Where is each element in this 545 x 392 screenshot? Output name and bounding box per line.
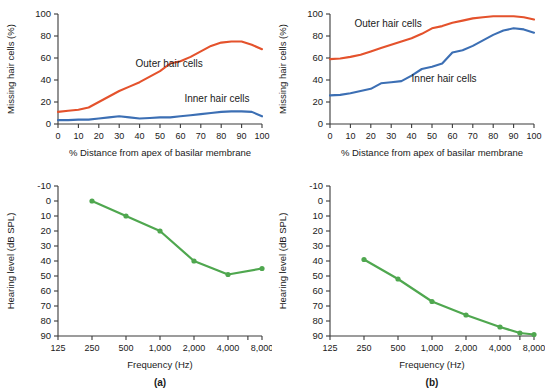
y-tick-label: 0 [318,195,323,206]
x-tick-label: 80 [216,131,226,141]
chart-panel-b-bottom: -100102030405060708090 1252505001,0002,0… [272,170,545,392]
y-tick-label: 60 [312,285,323,296]
data-point-marker [429,299,434,304]
y-ticks-a-top: 020406080100 [35,8,58,129]
y-ticks-b-bottom: -100102030405060708090 [309,180,330,341]
x-axis-title-b-bottom: Frequency (Hz) [399,359,464,370]
x-ticks-a-top: 0102030405060708090100 [55,124,269,141]
audiogram-chart-b: -100102030405060708090 1252505001,0002,0… [272,170,545,392]
x-tick-label: 30 [386,131,396,141]
audiogram-markers-b [361,257,536,337]
x-axis-title-a-bottom: Frequency (Hz) [127,359,192,370]
data-point-marker [497,324,502,329]
x-ticks-b-top: 0102030405060708090100 [327,124,541,141]
data-point-marker [259,266,264,271]
x-tick-label: 125 [50,343,65,353]
y-ticks-a-bottom: -100102030405060708090 [37,180,58,341]
y-axis-title-a-bottom: Hearing level (dB SPL) [5,213,16,310]
data-point-marker [463,312,468,317]
x-tick-label: 500 [390,343,405,353]
y-tick-label: 80 [312,30,323,41]
outer-hair-cells-label-a: Outer hair cells [136,58,203,69]
x-axis-title-a-top: % Distance from apex of basilar membrane [69,147,251,158]
x-tick-label: 50 [155,131,165,141]
y-tick-label: 10 [40,210,51,221]
y-tick-label: 70 [312,300,323,311]
x-axis-title-b-top: % Distance from apex of basilar membrane [341,147,523,158]
y-ticks-b-top: 020406080100 [307,8,330,129]
x-tick-label: 2,000 [183,343,206,353]
x-tick-label: 4,000 [217,343,240,353]
y-tick-label: 90 [312,330,323,341]
inner-hair-cells-label-a: Inner hair cells [184,93,249,104]
chart-panel-a-bottom: -100102030405060708090 1252505001,0002,0… [0,170,272,392]
y-tick-label: 70 [40,300,51,311]
x-tick-label: 10 [345,131,355,141]
y-tick-label: 100 [307,8,323,19]
audiogram-markers-a [89,198,264,277]
data-point-marker [157,228,162,233]
y-tick-label: 0 [318,118,323,129]
audiogram-line-a [92,201,262,275]
y-tick-label: 20 [40,96,51,107]
panel-label-b: (b) [426,377,439,388]
x-tick-label: 60 [175,131,185,141]
y-tick-label: 10 [312,210,323,221]
x-tick-label: 100 [526,131,541,141]
data-point-marker [89,198,94,203]
y-axis-title-a-top: Missing hair cells (%) [5,24,16,114]
x-ticks-a-bottom: 1252505001,0002,0004,0008,000 [50,336,272,353]
data-point-marker [517,330,522,335]
x-tick-label: 8,000 [523,343,545,353]
x-tick-label: 1,000 [149,343,172,353]
hair-cell-chart-b: 020406080100 0102030405060708090100 Miss… [272,0,545,170]
y-tick-label: 60 [40,285,51,296]
x-tick-label: 40 [407,131,417,141]
y-tick-label: -10 [309,180,323,191]
y-axis-title-b-bottom: Hearing level (dB SPL) [277,213,288,310]
x-tick-label: 100 [254,131,269,141]
y-tick-label: 100 [35,8,51,19]
x-tick-label: 8,000 [251,343,272,353]
y-tick-label: 40 [40,74,51,85]
x-tick-label: 250 [84,343,99,353]
y-tick-label: 20 [312,225,323,236]
x-tick-label: 70 [196,131,206,141]
x-tick-label: 60 [447,131,457,141]
data-point-marker [395,276,400,281]
x-tick-label: 40 [135,131,145,141]
y-tick-label: 20 [40,225,51,236]
y-tick-label: 80 [40,315,51,326]
chart-panel-b-top: 020406080100 0102030405060708090100 Miss… [272,0,545,170]
y-tick-label: 50 [40,270,51,281]
outer-hair-cells-label-b: Outer hair cells [354,18,421,29]
x-tick-label: 2,000 [455,343,478,353]
x-tick-label: 90 [509,131,519,141]
x-tick-label: 1,000 [421,343,444,353]
y-tick-label: 50 [312,270,323,281]
data-point-marker [225,272,230,277]
y-tick-label: 20 [312,96,323,107]
y-tick-label: 80 [312,315,323,326]
x-tick-label: 125 [322,343,337,353]
x-tick-label: 30 [114,131,124,141]
x-tick-label: 0 [327,131,332,141]
inner-hair-cells-curve-b [330,28,534,95]
inner-hair-cells-curve-a [58,111,262,120]
x-tick-label: 80 [488,131,498,141]
y-tick-label: 80 [40,30,51,41]
hair-cell-chart-a: 020406080100 0102030405060708090100 Miss… [0,0,272,170]
chart-panel-a-top: 020406080100 0102030405060708090100 Miss… [0,0,272,170]
x-tick-label: 70 [468,131,478,141]
panel-label-a: (a) [154,377,166,388]
x-tick-label: 20 [94,131,104,141]
x-tick-label: 4,000 [489,343,512,353]
y-tick-label: -10 [37,180,51,191]
x-tick-label: 20 [366,131,376,141]
y-tick-label: 60 [312,52,323,63]
x-tick-label: 10 [73,131,83,141]
inner-hair-cells-label-b: Inner hair cells [412,73,477,84]
x-tick-label: 0 [55,131,60,141]
figure-root: 020406080100 0102030405060708090100 Miss… [0,0,545,392]
x-tick-label: 500 [118,343,133,353]
